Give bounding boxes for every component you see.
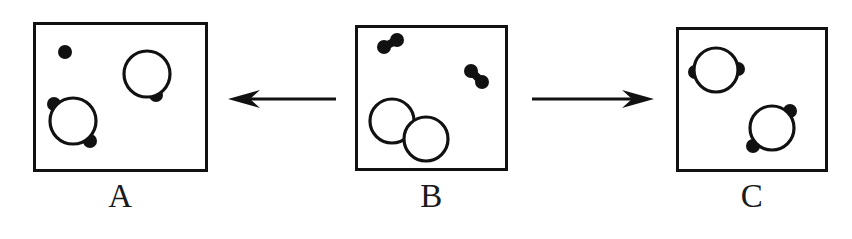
arrow-b-to-c-icon	[532, 86, 654, 112]
lower-right-ring	[750, 106, 794, 150]
upper-left-ring	[694, 48, 738, 92]
reaction-diagram: A B C	[0, 0, 852, 239]
panel-c-label: C	[676, 180, 828, 213]
arrow-b-to-a-icon	[228, 86, 336, 112]
